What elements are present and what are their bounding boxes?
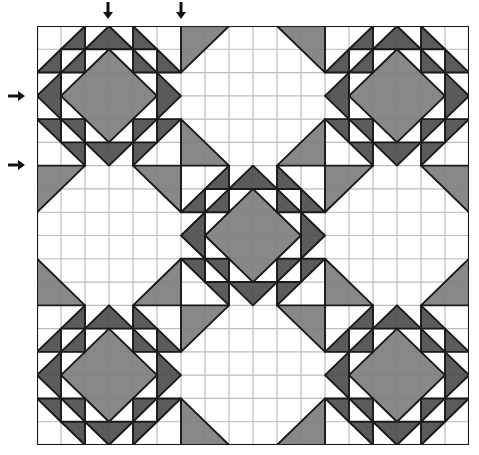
star-corner_triangle [157, 329, 181, 352]
quilt-diagram [37, 26, 469, 445]
star-corner_triangle [349, 142, 373, 165]
star-flying_geese [373, 305, 421, 328]
star-corner_triangle [325, 49, 349, 72]
star-corner_triangle [157, 398, 181, 421]
star-corner_triangle [61, 422, 85, 445]
arrow-right-icon [7, 86, 27, 106]
star-corner_triangle [421, 398, 445, 421]
star-corner_triangle [133, 119, 157, 142]
star-corner_triangle [349, 398, 373, 421]
star-corner_triangle [277, 189, 301, 212]
star-corner_triangle [445, 398, 469, 421]
star-corner_triangle [133, 329, 157, 352]
star-flying_geese [325, 352, 349, 399]
star-corner_triangle [61, 49, 85, 72]
star-flying_geese [229, 166, 277, 189]
star-corner_triangle [421, 119, 445, 142]
star-flying_geese [85, 305, 133, 328]
star-corner_triangle [421, 422, 445, 445]
star-flying_geese [157, 73, 181, 120]
star-flying_geese [445, 73, 469, 120]
star-corner_triangle [277, 282, 301, 305]
star-corner_triangle [133, 26, 157, 49]
star-corner_triangle [277, 166, 301, 189]
star-corner_triangle [61, 305, 85, 328]
star-corner_triangle [325, 398, 349, 421]
star-corner_triangle [133, 142, 157, 165]
arrow-right-icon [7, 155, 27, 175]
star-flying_geese [445, 352, 469, 399]
star-corner_triangle [181, 189, 205, 212]
star-flying_geese [37, 73, 61, 120]
star-corner_triangle [325, 329, 349, 352]
star-corner_triangle [205, 166, 229, 189]
star-flying_geese [373, 142, 421, 165]
star-flying_geese [37, 352, 61, 399]
star-corner_triangle [349, 49, 373, 72]
star-corner_triangle [133, 305, 157, 328]
star-corner_triangle [205, 259, 229, 282]
star-corner_triangle [205, 282, 229, 305]
star-corner_triangle [325, 119, 349, 142]
star-flying_geese [85, 26, 133, 49]
star-corner_triangle [37, 119, 61, 142]
star-flying_geese [373, 422, 421, 445]
star-flying_geese [301, 212, 325, 259]
star-corner_triangle [157, 119, 181, 142]
star-corner_triangle [421, 305, 445, 328]
star-corner_triangle [205, 189, 229, 212]
star-flying_geese [85, 422, 133, 445]
star-corner_triangle [37, 49, 61, 72]
star-corner_triangle [349, 26, 373, 49]
star-corner_triangle [421, 142, 445, 165]
star-corner_triangle [445, 119, 469, 142]
star-corner_triangle [133, 422, 157, 445]
star-corner_triangle [421, 49, 445, 72]
star-corner_triangle [61, 398, 85, 421]
star-corner_triangle [61, 119, 85, 142]
arrow-down-icon [98, 1, 118, 21]
star-flying_geese [325, 73, 349, 120]
star-corner_triangle [445, 49, 469, 72]
star-corner_triangle [133, 398, 157, 421]
star-corner_triangle [133, 49, 157, 72]
star-corner_triangle [157, 49, 181, 72]
star-corner_triangle [37, 329, 61, 352]
star-corner_triangle [37, 398, 61, 421]
star-flying_geese [373, 26, 421, 49]
star-corner_triangle [349, 422, 373, 445]
star-corner_triangle [421, 329, 445, 352]
star-corner_triangle [349, 119, 373, 142]
star-flying_geese [181, 212, 205, 259]
star-corner_triangle [349, 305, 373, 328]
arrow-down-icon [171, 1, 191, 21]
star-corner_triangle [61, 26, 85, 49]
star-flying_geese [85, 142, 133, 165]
star-corner_triangle [421, 26, 445, 49]
star-corner_triangle [61, 142, 85, 165]
star-flying_geese [229, 282, 277, 305]
star-corner_triangle [301, 259, 325, 282]
star-corner_triangle [61, 329, 85, 352]
star-corner_triangle [277, 259, 301, 282]
star-corner_triangle [181, 259, 205, 282]
star-corner_triangle [301, 189, 325, 212]
star-corner_triangle [445, 329, 469, 352]
star-corner_triangle [349, 329, 373, 352]
star-flying_geese [157, 352, 181, 399]
